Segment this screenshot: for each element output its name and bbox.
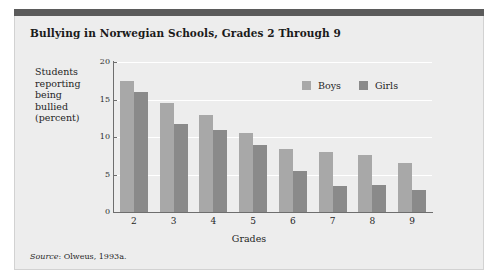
x-axis-line: [113, 212, 433, 213]
x-tick-label-grade-5: 5: [233, 216, 273, 226]
y-tick-mark: [113, 137, 117, 138]
gridline: [114, 100, 432, 101]
x-tick-label-grade-4: 4: [194, 216, 234, 226]
x-tick-label-grade-8: 8: [353, 216, 393, 226]
bar-boys-grade-6: [279, 149, 293, 212]
x-tick-label-grade-3: 3: [154, 216, 194, 226]
x-tick-label-grade-6: 6: [273, 216, 313, 226]
figure-top-rule: [14, 9, 484, 16]
source-label: Source: [30, 252, 59, 261]
y-tick-label: 0: [88, 207, 110, 216]
figure-container: Bullying in Norwegian Schools, Grades 2 …: [14, 9, 484, 270]
bar-boys-grade-4: [199, 115, 213, 213]
legend-label-boys: Boys: [318, 80, 341, 91]
bar-boys-grade-3: [160, 103, 174, 212]
bar-boys-grade-5: [239, 133, 253, 213]
y-tick-label: 15: [88, 95, 110, 104]
x-axis-title: Grades: [14, 233, 484, 244]
legend-label-girls: Girls: [375, 80, 398, 91]
bar-girls-grade-4: [213, 130, 227, 213]
legend-swatch-boys: [302, 81, 311, 90]
y-tick-label: 5: [88, 170, 110, 179]
x-tick-label-grade-9: 9: [392, 216, 432, 226]
y-tick-label: 20: [88, 57, 110, 66]
y-tick-mark: [113, 100, 117, 101]
bar-girls-grade-6: [293, 171, 307, 212]
y-tick-mark: [113, 212, 117, 213]
bar-boys-grade-8: [358, 155, 372, 212]
bar-girls-grade-3: [174, 124, 188, 213]
chart-title: Bullying in Norwegian Schools, Grades 2 …: [30, 27, 341, 39]
y-tick-mark: [113, 62, 117, 63]
bar-girls-grade-2: [134, 92, 148, 212]
bar-girls-grade-8: [372, 185, 386, 212]
legend-item-boys: Boys: [302, 80, 341, 91]
x-tick-label-grade-2: 2: [114, 216, 154, 226]
bar-girls-grade-7: [333, 186, 347, 212]
bar-girls-grade-5: [253, 145, 267, 213]
y-tick-mark: [113, 175, 117, 176]
bar-girls-grade-9: [412, 190, 426, 213]
legend-swatch-girls: [359, 81, 368, 90]
bar-boys-grade-9: [398, 163, 412, 212]
bar-boys-grade-2: [120, 81, 134, 212]
gridline: [114, 62, 432, 63]
y-tick-label: 10: [88, 132, 110, 141]
legend-item-girls: Girls: [359, 80, 398, 91]
x-tick-label-grade-7: 7: [313, 216, 353, 226]
source-note: Source: Olweus, 1993a.: [30, 252, 126, 261]
bar-boys-grade-7: [319, 152, 333, 212]
source-text: : Olweus, 1993a.: [59, 252, 127, 261]
chart-legend: BoysGirls: [302, 80, 398, 91]
